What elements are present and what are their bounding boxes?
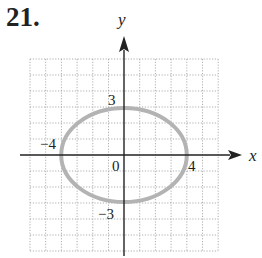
x-axis-arrow-icon xyxy=(228,150,242,160)
tick-label-x-neg4: −4 xyxy=(40,136,56,153)
y-axis-arrow-icon xyxy=(119,36,129,52)
ellipse-graph xyxy=(0,0,262,258)
x-axis-label: x xyxy=(249,146,257,166)
y-axis-label: y xyxy=(118,10,126,30)
tick-label-x-4: 4 xyxy=(188,158,196,175)
tick-label-y-3: 3 xyxy=(108,92,116,109)
origin-label: 0 xyxy=(112,158,120,175)
tick-label-y-neg3: −3 xyxy=(98,206,114,223)
